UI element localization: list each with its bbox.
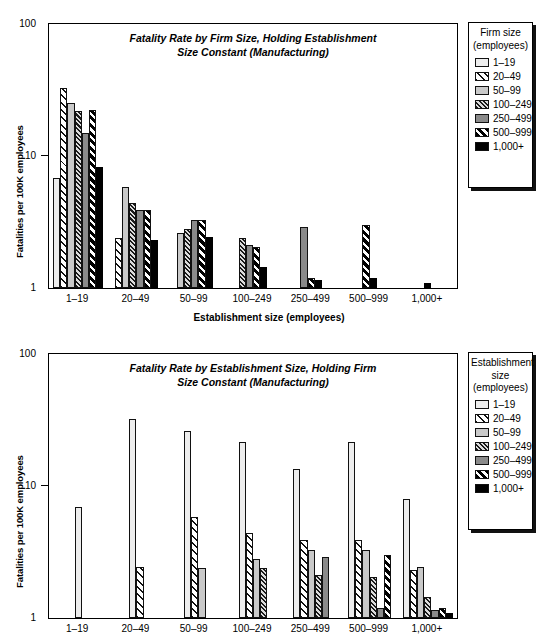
bar [191,220,198,288]
legend-swatch-250-499-icon [475,114,489,123]
legend-swatch-1-19-icon [475,58,489,67]
x-tick-label: 1–19 [48,623,106,634]
y-tick-100-bottom: 100 [8,348,36,359]
bar [151,240,158,288]
bar [300,227,307,288]
bar [144,210,151,288]
bar [191,517,198,618]
bar [75,111,82,288]
bar [370,577,377,618]
bar [177,233,184,288]
y-tick-100-top: 100 [8,18,36,29]
bar [308,550,315,618]
legend-row[interactable]: 1–19 [475,55,532,69]
legend-row[interactable]: 500–999 [475,468,532,482]
bar [89,110,96,288]
bar [246,533,253,618]
bar [439,608,446,618]
bar [82,133,89,288]
bar [384,555,391,618]
legend-label: 1–19 [493,399,515,410]
chart-title-bottom: Fatality Rate by Establishment Size, Hol… [49,362,457,389]
bar [253,559,260,618]
bar [410,570,417,618]
legend-swatch-500-999-icon [475,128,489,137]
plot-area-top: Fatality Rate by Firm Size, Holding Esta… [48,23,458,289]
bar [96,167,103,288]
bar [417,567,424,618]
legend-label: 1,000+ [493,141,524,152]
bar [370,278,377,288]
chart-title-top: Fatality Rate by Firm Size, Holding Esta… [49,32,457,59]
legend-row[interactable]: 1–19 [475,398,532,412]
legend-swatch-20-49-icon [475,414,489,423]
bar [239,442,246,618]
legend-swatch-20-49-icon [475,72,489,81]
x-tick-label: 250–499 [281,623,339,634]
bar [315,575,322,618]
legend-row[interactable]: 250–499 [475,454,532,468]
legend-title-bottom: Establishment size (employees) [469,353,532,397]
bar [446,613,453,618]
legend-label: 100–249 [493,441,532,452]
legend-swatch-50-99-icon [475,428,489,437]
legend-bottom: Establishment size (employees) 1–19 20–4… [468,352,533,530]
legend-row[interactable]: 50–99 [475,426,532,440]
bar [315,280,322,288]
y-tick-mark-10-top [41,155,48,156]
x-tick-label: 1,000+ [398,293,456,304]
legend-row[interactable]: 100–249 [475,97,532,111]
y-tick-mark-10-bottom [41,485,48,486]
legend-title-top: Firm size (employees) [469,23,532,54]
x-tick-label: 250–499 [281,293,339,304]
legend-row[interactable]: 1,000+ [475,139,532,153]
x-tick-label: 20–49 [106,623,164,634]
y-tick-1-bottom: 1 [8,612,36,623]
legend-label: 20–49 [493,413,521,424]
bar [129,419,136,618]
plot-area-bottom: Fatality Rate by Establishment Size, Hol… [48,353,458,619]
y-axis-label-bottom: Fatalities per 100K employees [14,455,25,588]
x-tick-label: 100–249 [223,623,281,634]
legend-top: Firm size (employees) 1–19 20–49 50–99 1… [468,22,533,188]
bar [136,567,143,618]
legend-row[interactable]: 20–49 [475,412,532,426]
bar [377,608,384,618]
legend-swatch-250-499-icon [475,456,489,465]
legend-swatch-1-19-icon [475,400,489,409]
legend-label: 1,000+ [493,483,524,494]
bar [184,431,191,618]
legend-label: 500–999 [493,127,532,138]
legend-swatch-500-999-icon [475,470,489,479]
x-tick-label: 1–19 [48,293,106,304]
legend-row[interactable]: 500–999 [475,125,532,139]
x-tick-label: 500–999 [339,623,397,634]
y-tick-10-bottom: 10 [8,480,36,491]
bar [431,610,438,618]
legend-items-top: 1–19 20–49 50–99 100–249 250–499 500–999 [469,54,532,158]
legend-label: 20–49 [493,71,521,82]
legend-row[interactable]: 20–49 [475,69,532,83]
bar [129,203,136,288]
bar [60,88,67,288]
legend-label: 50–99 [493,85,521,96]
bar [348,442,355,618]
bar [424,283,431,288]
legend-swatch-100-249-icon [475,442,489,451]
bar [308,278,315,288]
bar [260,568,267,618]
x-tick-label: 1,000+ [398,623,456,634]
x-tick-label: 50–99 [165,293,223,304]
legend-label: 100–249 [493,99,532,110]
x-tick-label: 500–999 [339,293,397,304]
legend-row[interactable]: 250–499 [475,111,532,125]
legend-row[interactable]: 100–249 [475,440,532,454]
legend-label: 1–19 [493,57,515,68]
legend-label: 250–499 [493,455,532,466]
bar [75,507,82,618]
bar [362,550,369,618]
x-tick-label: 50–99 [165,623,223,634]
legend-row[interactable]: 1,000+ [475,482,532,496]
legend-row[interactable]: 50–99 [475,83,532,97]
y-tick-10-top: 10 [8,150,36,161]
